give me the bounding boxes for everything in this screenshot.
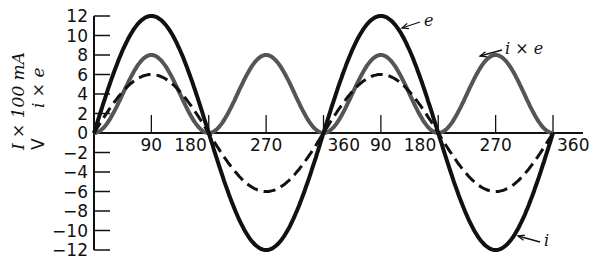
y-axis-title-line1: I × 100 mA xyxy=(8,52,28,151)
chart: I × 100 mA V i × e 121086420−2−4−6−8−10−… xyxy=(0,0,592,266)
x-tick-label: 270 xyxy=(479,135,511,155)
y-axis-title-line2: V xyxy=(28,138,48,150)
x-tick-label: 360 xyxy=(328,135,360,155)
y-tick-label: 10 xyxy=(66,26,88,46)
annotation-label: i xyxy=(544,231,549,250)
x-tick-label: 360 xyxy=(557,135,589,155)
y-tick-label: −6 xyxy=(63,182,88,202)
x-tick-label: 90 xyxy=(370,135,392,155)
y-tick-label: −4 xyxy=(63,162,88,182)
y-axis-title-line3: i × e xyxy=(28,67,48,108)
y-tick-label: 4 xyxy=(77,84,88,104)
x-tick-label: 180 xyxy=(174,135,206,155)
y-tick-label: −2 xyxy=(63,143,88,163)
y-tick-label: 12 xyxy=(66,6,88,26)
y-tick-label: 0 xyxy=(77,123,88,143)
x-axis: 9018027036090180270360 xyxy=(94,115,589,155)
x-tick-label: 90 xyxy=(141,135,163,155)
y-tick-label: 2 xyxy=(77,104,88,124)
y-tick-label: −10 xyxy=(52,221,88,241)
y-axis-title: I × 100 mA V i × e xyxy=(8,52,48,151)
y-tick-label: 8 xyxy=(77,45,88,65)
annotation-label: e xyxy=(424,11,433,30)
x-tick-label: 270 xyxy=(250,135,282,155)
y-tick-label: −8 xyxy=(63,201,88,221)
x-tick-label: 180 xyxy=(404,135,436,155)
y-tick-label: −12 xyxy=(52,240,88,260)
y-tick-label: 6 xyxy=(77,65,88,85)
annotation-label: i × e xyxy=(505,39,543,58)
